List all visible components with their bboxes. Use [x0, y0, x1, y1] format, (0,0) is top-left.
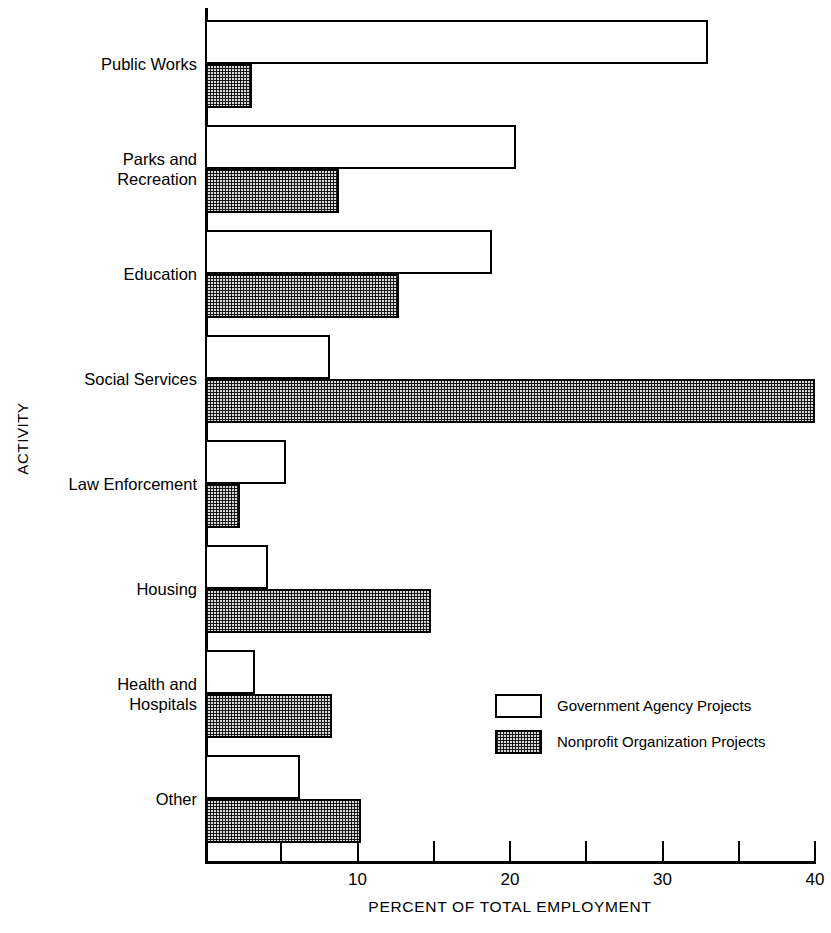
category-label-other: Other [20, 789, 205, 809]
x-axis-tick-label-40: 40 [806, 870, 825, 890]
bar-education-government [205, 230, 492, 274]
category-label-line: Education [20, 264, 197, 284]
category-label-health-and-hospitals: Health andHospitals [20, 674, 205, 714]
category-label-line: Health and [20, 674, 197, 694]
x-axis-tick-20 [509, 841, 511, 862]
legend-item-nonprofit-organization-projects: Nonprofit Organization Projects [495, 726, 815, 757]
x-axis-tick-25 [585, 841, 587, 862]
x-axis-tick-15 [433, 841, 435, 862]
bar-other-government [205, 755, 300, 799]
category-label-parks-and-recreation: Parks andRecreation [20, 149, 205, 189]
x-axis-tick-10 [357, 841, 359, 862]
bar-health-and-hospitals-government [205, 650, 255, 694]
bar-social-services-nonprofit [205, 379, 815, 423]
category-label-law-enforcement: Law Enforcement [20, 474, 205, 494]
bar-social-services-government [205, 335, 330, 379]
category-label-line: Recreation [20, 169, 197, 189]
category-label-public-works: Public Works [20, 54, 205, 74]
legend: Government Agency ProjectsNonprofit Orga… [495, 690, 815, 762]
category-label-line: Parks and [20, 149, 197, 169]
category-label-line: Public Works [20, 54, 197, 74]
category-label-education: Education [20, 264, 205, 284]
category-label-line: Law Enforcement [20, 474, 197, 494]
x-axis-tick-30 [662, 841, 664, 862]
hatched-box-swatch [495, 730, 542, 754]
bar-chart: ACTIVITY Public WorksParks andRecreation… [0, 0, 831, 933]
category-label-column: Public WorksParks andRecreationEducation… [0, 0, 205, 933]
bar-housing-nonprofit [205, 589, 431, 633]
legend-label: Government Agency Projects [557, 697, 751, 714]
bar-parks-and-recreation-government [205, 125, 516, 169]
bar-public-works-nonprofit [205, 64, 252, 108]
category-label-line: Other [20, 789, 197, 809]
bar-law-enforcement-government [205, 440, 286, 484]
x-axis-tick-label-20: 20 [501, 870, 520, 890]
x-axis-tick-40 [814, 841, 816, 862]
x-axis-tick-35 [738, 841, 740, 862]
category-label-housing: Housing [20, 579, 205, 599]
x-axis-tick-5 [280, 841, 282, 862]
category-label-line: Housing [20, 579, 197, 599]
x-axis-tick-label-30: 30 [653, 870, 672, 890]
bar-public-works-government [205, 20, 708, 64]
white-box-swatch [495, 694, 542, 718]
bar-law-enforcement-nonprofit [205, 484, 240, 528]
x-axis-tick-label-10: 10 [348, 870, 367, 890]
bar-parks-and-recreation-nonprofit [205, 169, 339, 213]
category-label-social-services: Social Services [20, 369, 205, 389]
category-label-line: Hospitals [20, 694, 197, 714]
bar-other-nonprofit [205, 799, 361, 843]
category-label-line: Social Services [20, 369, 197, 389]
legend-label: Nonprofit Organization Projects [557, 733, 765, 750]
legend-item-government-agency-projects: Government Agency Projects [495, 690, 815, 721]
bar-housing-government [205, 545, 268, 589]
bar-education-nonprofit [205, 274, 399, 318]
bar-health-and-hospitals-nonprofit [205, 694, 332, 738]
x-axis-title: PERCENT OF TOTAL EMPLOYMENT [205, 898, 815, 916]
